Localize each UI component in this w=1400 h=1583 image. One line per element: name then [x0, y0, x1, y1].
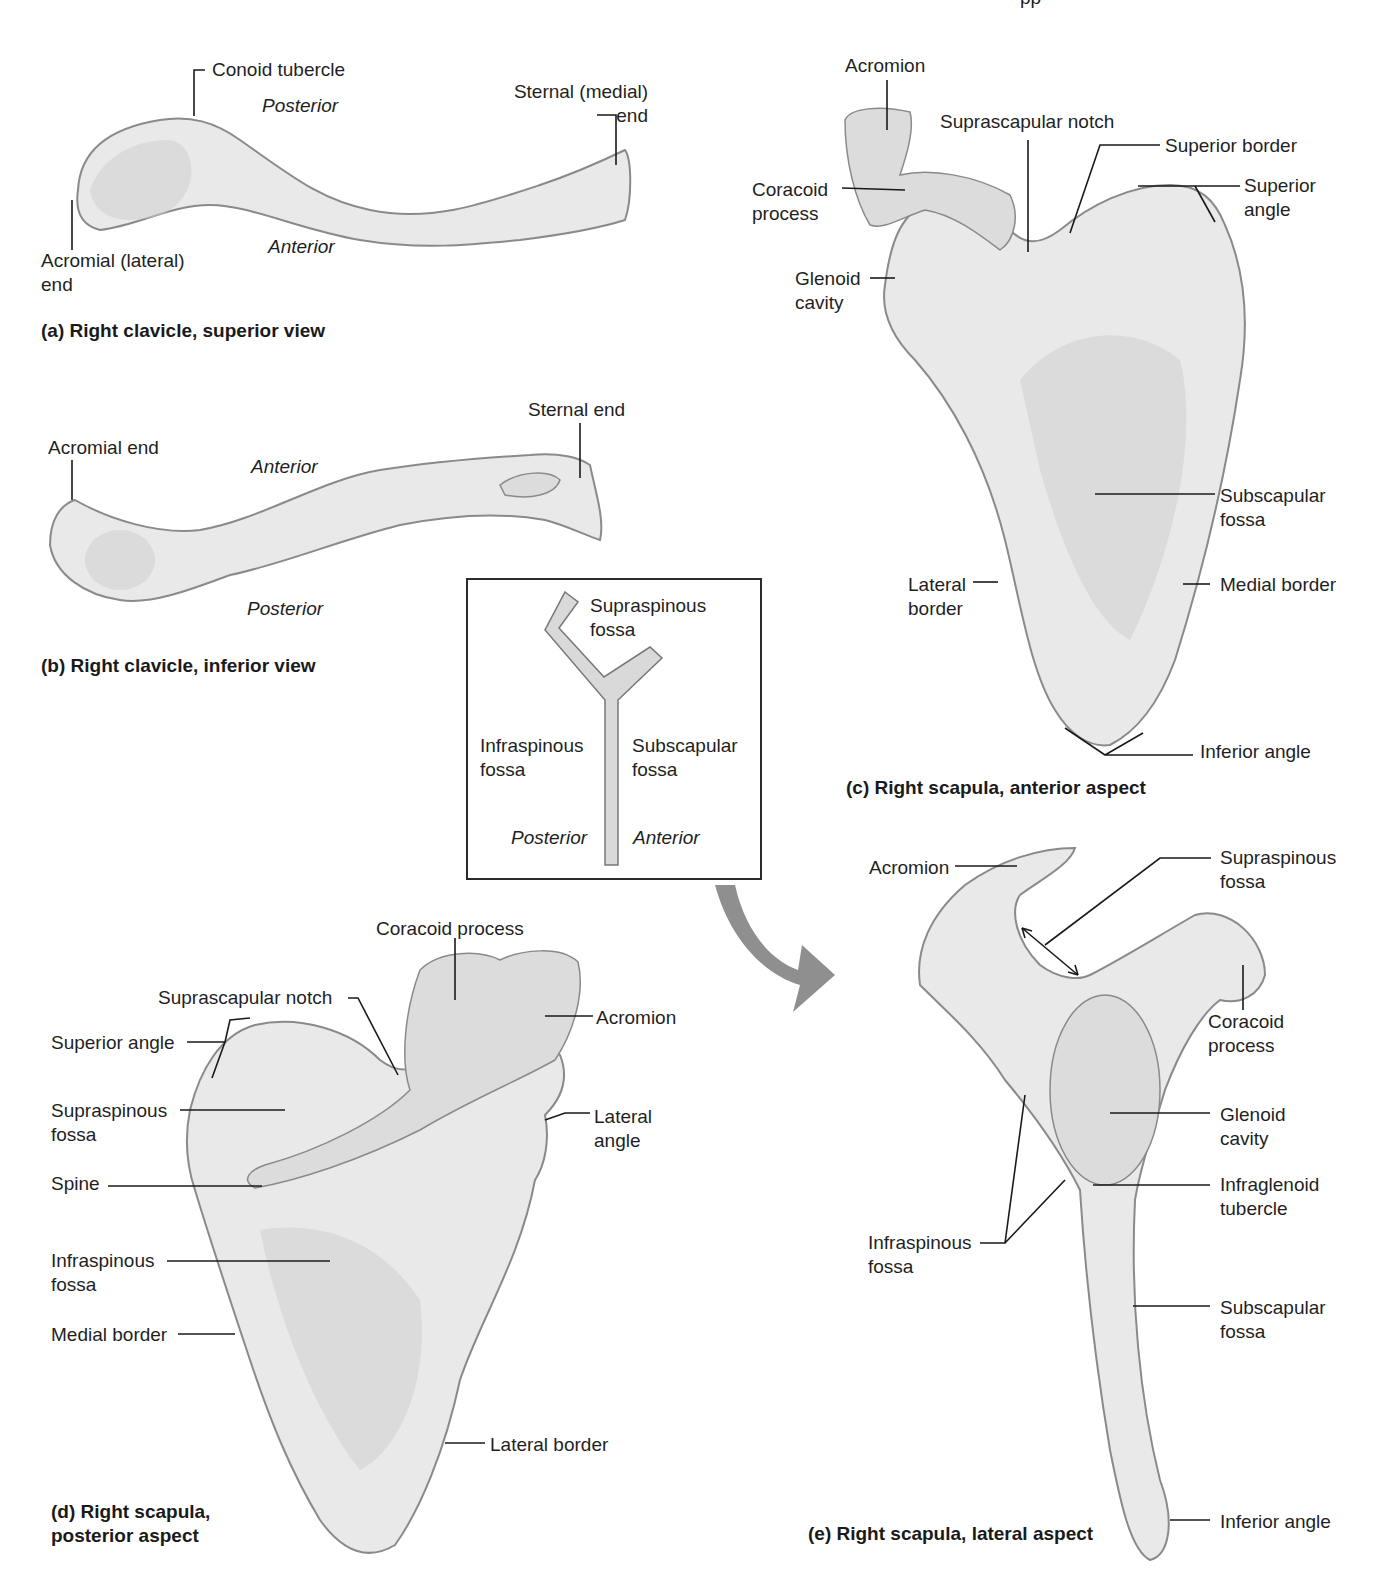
label-acromial-lateral-end: Acromial (lateral) end: [41, 249, 185, 297]
label-anterior: Anterior: [251, 455, 318, 479]
scapula-anterior-illustration: [845, 108, 1245, 745]
inset-label-posterior: Posterior: [511, 826, 587, 850]
scapula-lateral-illustration: [919, 848, 1265, 1560]
caption-panel-d: (d) Right scapula, posterior aspect: [51, 1500, 210, 1548]
label-coracoid-process: Coracoid process: [1208, 1010, 1284, 1058]
label-supraspinous-fossa: Supraspinous fossa: [1220, 846, 1336, 894]
label-medial-border: Medial border: [51, 1323, 167, 1347]
label-inferior-angle: Inferior angle: [1220, 1510, 1331, 1534]
inset-label-anterior: Anterior: [633, 826, 700, 850]
caption-panel-a: (a) Right clavicle, superior view: [41, 319, 325, 343]
label-lateral-border: Lateral border: [908, 573, 966, 621]
inset-label-supraspinous: Supraspinous fossa: [590, 594, 706, 642]
label-acromion: Acromion: [845, 54, 925, 78]
label-glenoid-cavity: Glenoid cavity: [1220, 1103, 1286, 1151]
clavicle-superior-illustration: [77, 118, 630, 245]
header-fragment: pp: [1020, 0, 1041, 10]
label-medial-border: Medial border: [1220, 573, 1336, 597]
label-superior-angle: Superior angle: [51, 1031, 175, 1055]
label-anterior: Anterior: [268, 235, 335, 259]
label-coracoid-process: Coracoid process: [376, 917, 524, 941]
caption-panel-e: (e) Right scapula, lateral aspect: [808, 1522, 1093, 1546]
label-superior-border: Superior border: [1165, 134, 1297, 158]
label-infraglenoid-tubercle: Infraglenoid tubercle: [1220, 1173, 1319, 1221]
curved-arrow-icon: [715, 885, 835, 1012]
label-acromion: Acromion: [869, 856, 949, 880]
label-infraspinous-fossa: Infraspinous fossa: [51, 1249, 155, 1297]
inset-label-subscapular: Subscapular fossa: [632, 734, 738, 782]
label-sternal-end: Sternal end: [528, 398, 625, 422]
label-inferior-angle: Inferior angle: [1200, 740, 1311, 764]
label-posterior: Posterior: [262, 94, 338, 118]
label-spine: Spine: [51, 1172, 100, 1196]
label-superior-angle: Superior angle: [1244, 174, 1316, 222]
inset-label-infraspinous: Infraspinous fossa: [480, 734, 584, 782]
label-sternal-medial-end: Sternal (medial) end: [503, 80, 648, 128]
label-glenoid-cavity: Glenoid cavity: [795, 267, 861, 315]
label-supraspinous-fossa: Supraspinous fossa: [51, 1099, 167, 1147]
scapula-posterior-illustration: [187, 951, 581, 1553]
label-lateral-border: Lateral border: [490, 1433, 608, 1457]
label-acromion: Acromion: [596, 1006, 676, 1030]
label-posterior: Posterior: [247, 597, 323, 621]
label-conoid-tubercle: Conoid tubercle: [212, 58, 345, 82]
caption-panel-c: (c) Right scapula, anterior aspect: [846, 776, 1146, 800]
caption-panel-b: (b) Right clavicle, inferior view: [41, 654, 316, 678]
label-subscapular-fossa: Subscapular fossa: [1220, 1296, 1326, 1344]
label-acromial-end: Acromial end: [48, 436, 159, 460]
label-subscapular-fossa: Subscapular fossa: [1220, 484, 1326, 532]
label-coracoid-process: Coracoid process: [752, 178, 828, 226]
label-suprascapular-notch: Suprascapular notch: [940, 110, 1114, 134]
label-lateral-angle: Lateral angle: [594, 1105, 652, 1153]
label-infraspinous-fossa: Infraspinous fossa: [868, 1231, 972, 1279]
label-suprascapular-notch: Suprascapular notch: [158, 986, 332, 1010]
